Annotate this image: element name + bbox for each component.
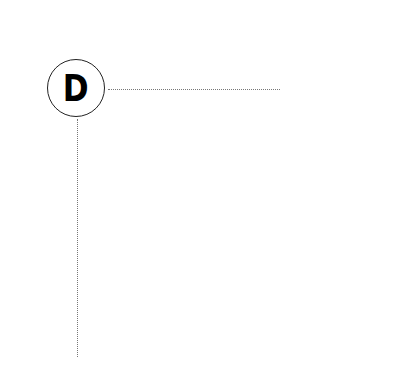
vertical-dotted-connector bbox=[77, 119, 78, 357]
node-label: D bbox=[63, 69, 89, 107]
node-d-circle: D bbox=[47, 59, 105, 117]
horizontal-dotted-connector bbox=[108, 89, 280, 90]
diagram-canvas: D bbox=[0, 0, 403, 372]
